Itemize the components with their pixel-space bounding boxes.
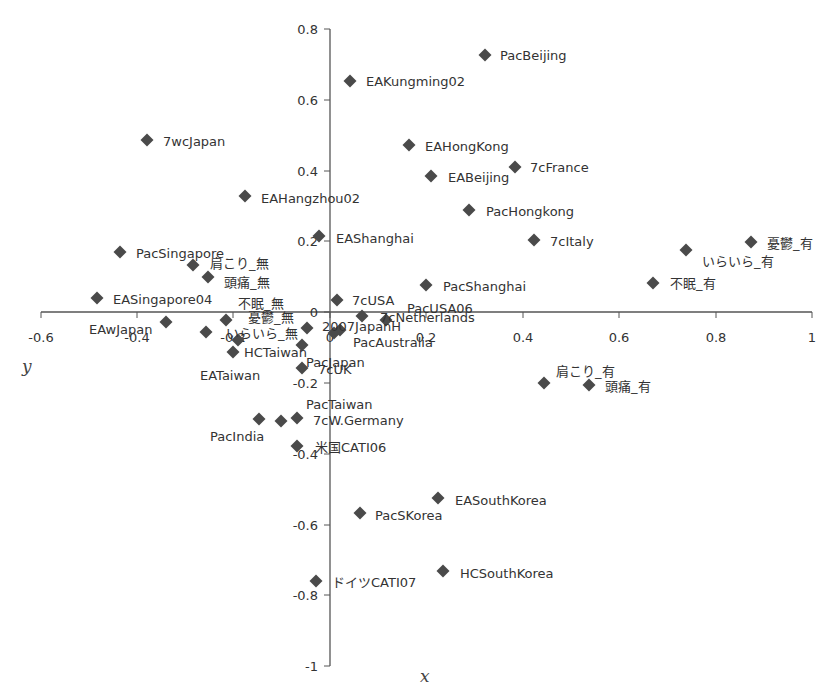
diamond-marker-icon xyxy=(745,236,758,249)
point-label: EABeijing xyxy=(448,170,509,185)
diamond-marker-icon xyxy=(437,565,450,578)
x-tick-label: 0.4 xyxy=(513,330,534,345)
diamond-marker-icon xyxy=(310,575,323,588)
diamond-marker-icon xyxy=(301,322,314,335)
point-label: EAKungming02 xyxy=(366,74,465,89)
point-label: 7cFrance xyxy=(530,160,589,175)
y-axis-title: y xyxy=(21,356,32,376)
diamond-marker-icon xyxy=(647,277,660,290)
diamond-marker-icon xyxy=(91,292,104,305)
point-label: 肩こり_無 xyxy=(210,256,269,271)
point-label: 7wcJapan xyxy=(163,134,225,149)
point-label: PacShanghai xyxy=(443,279,526,294)
diamond-marker-icon xyxy=(227,346,240,359)
point-label: EAwJapan xyxy=(89,322,152,337)
point-label: 米国CATI06 xyxy=(315,440,386,455)
point-label: 7cItaly xyxy=(550,234,594,249)
point-label: 7cUSA xyxy=(352,293,394,308)
x-tick-label: -0.6 xyxy=(28,330,53,345)
diamond-marker-icon xyxy=(220,314,233,327)
diamond-marker-icon xyxy=(141,134,154,147)
diamond-marker-icon xyxy=(344,75,357,88)
x-tick-label: 0.8 xyxy=(706,330,727,345)
diamond-marker-icon xyxy=(425,170,438,183)
diamond-marker-icon xyxy=(114,246,127,259)
point-label: 2007JapanH xyxy=(322,319,401,334)
diamond-marker-icon xyxy=(420,279,433,292)
point-label: HCTaiwan xyxy=(244,345,307,360)
y-tick-label: -0.6 xyxy=(293,518,318,533)
point-label: PacBeijing xyxy=(500,48,567,63)
point-label: 7cUK xyxy=(318,362,352,377)
scatter-chart: -0.6-0.4-0.200.20.40.60.81 0.80.60.40.20… xyxy=(0,0,840,700)
diamond-marker-icon xyxy=(253,413,266,426)
point-label: いらいら_有 xyxy=(702,254,774,269)
point-label: PacIndia xyxy=(210,429,264,444)
y-tick-label: -1 xyxy=(305,659,318,674)
point-label: ドイツCATI07 xyxy=(332,575,416,590)
diamond-marker-icon xyxy=(403,139,416,152)
point-label: HCSouthKorea xyxy=(460,566,554,581)
point-label: 不眠_有 xyxy=(670,276,716,291)
diamond-marker-icon xyxy=(680,244,693,257)
point-label: 不眠_無 xyxy=(238,296,284,311)
diamond-marker-icon xyxy=(583,379,596,392)
diamond-marker-icon xyxy=(538,377,551,390)
point-label: 頭痛_有 xyxy=(605,379,651,394)
diamond-marker-icon xyxy=(160,316,173,329)
point-label: EASouthKorea xyxy=(455,493,547,508)
x-tick-label: 0.6 xyxy=(609,330,630,345)
diamond-marker-icon xyxy=(239,190,252,203)
point-label: 頭痛_無 xyxy=(224,275,270,290)
diamond-marker-icon xyxy=(202,271,215,284)
y-tick-label: 0.6 xyxy=(297,93,318,108)
y-tick-label: 0.4 xyxy=(297,164,318,179)
diamond-marker-icon xyxy=(479,49,492,62)
y-tick-label: 0.8 xyxy=(297,22,318,37)
point-label: EATaiwan xyxy=(200,368,260,383)
point-label: EAHangzhou02 xyxy=(261,191,360,206)
x-tick-label: 1 xyxy=(808,330,816,345)
diamond-marker-icon xyxy=(463,204,476,217)
point-label: PacAustralia xyxy=(353,335,433,350)
y-tick-label: -0.2 xyxy=(293,376,318,391)
diamond-marker-icon xyxy=(331,294,344,307)
x-axis-title: x xyxy=(420,666,430,686)
point-label: PacTaiwan xyxy=(306,397,373,412)
diamond-marker-icon xyxy=(354,507,367,520)
y-tick-label: 0 xyxy=(310,305,318,320)
diamond-marker-icon xyxy=(509,161,522,174)
point-label: 7cW.Germany xyxy=(313,413,404,428)
point-label: 憂鬱_有 xyxy=(767,236,813,251)
point-labels: PacBeijingEAKungming027wcJapanEAHongKong… xyxy=(89,48,813,590)
point-label: 肩こり_有 xyxy=(556,364,615,379)
point-label: EAHongKong xyxy=(425,139,509,154)
point-label: EAShanghai xyxy=(336,231,414,246)
diamond-marker-icon xyxy=(200,326,213,339)
y-tick-label: -0.8 xyxy=(293,588,318,603)
diamond-marker-icon xyxy=(432,492,445,505)
diamond-marker-icon xyxy=(528,234,541,247)
point-label: いらいら_無 xyxy=(226,326,298,341)
point-label: 憂鬱_無 xyxy=(248,310,294,325)
diamond-marker-icon xyxy=(275,415,288,428)
point-label: EASingapore04 xyxy=(113,292,212,307)
point-label: PacHongkong xyxy=(486,204,574,219)
diamond-marker-icon xyxy=(291,412,304,425)
point-label: PacSKorea xyxy=(375,508,442,523)
